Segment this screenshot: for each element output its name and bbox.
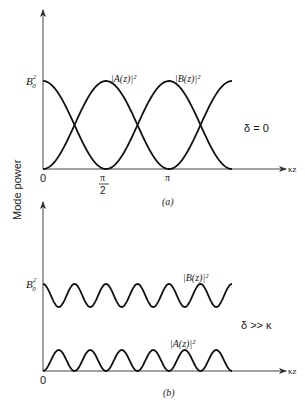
- panel-a-x-tick-pi-half-den: 2: [100, 186, 106, 196]
- panel-a-curve-A-label: |A(z)|²: [111, 74, 136, 84]
- panel-b-curve-A-label: |A(z)|²: [170, 339, 195, 349]
- panel-a-curve-B-label: |B(z)|²: [175, 74, 200, 84]
- panel-a-condition: δ = 0: [244, 123, 269, 134]
- panel-a-x-axis-label: κz: [288, 165, 297, 174]
- panel-a-x-tick-0: 0: [40, 173, 46, 184]
- y-axis-label: Mode power: [11, 159, 23, 220]
- panel-a-caption: (a): [162, 197, 174, 207]
- panel-b-y-tick-b0sq: B20: [26, 279, 40, 290]
- panel-b-curve-A: [43, 350, 232, 371]
- panel-a-x-tick-pi: π: [165, 173, 170, 183]
- panel-a-y-tick-b0sq: B20: [26, 76, 40, 87]
- panel-a-curve-B: [43, 81, 232, 169]
- figure-plot: [0, 0, 305, 406]
- panel-b-caption: (b): [163, 388, 175, 398]
- panel-b-curve-B: [43, 284, 232, 307]
- panel-b-curve-B-label: |B(z)|²: [183, 273, 208, 283]
- panel-b-x-tick-0: 0: [40, 375, 46, 386]
- panel-b-condition: δ >> κ: [241, 320, 272, 331]
- panel-b-x-axis-label: κz: [288, 367, 297, 376]
- panel-a-x-tick-pi-half-num: π: [100, 173, 105, 183]
